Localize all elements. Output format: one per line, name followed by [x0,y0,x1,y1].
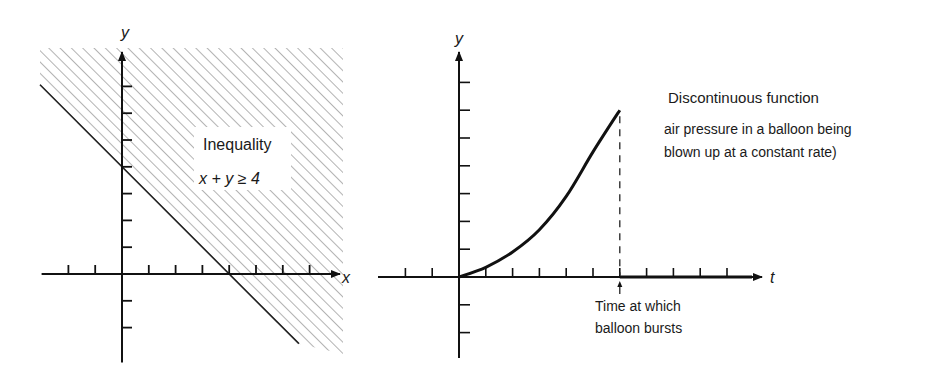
inequality-title: Inequality [203,136,272,153]
shaded-region [40,48,343,354]
pressure-curve [459,110,620,277]
burst-annotation-line-1: Time at which [595,298,681,314]
t-axis-label: t [770,269,775,286]
burst-annotation-line-2: balloon bursts [595,320,682,336]
burst-arrow-head-icon [617,281,622,287]
diagram-canvas: x y Inequality x + y ≥ 4 t y Discontinuo… [0,0,943,378]
inequality-graph: x y Inequality x + y ≥ 4 [40,24,351,362]
x-axis-label: x [341,269,351,286]
description-line-2: blown up at a constant rate) [664,144,837,160]
inequality-equation: x + y ≥ 4 [198,170,260,187]
function-title: Discontinuous function [668,89,819,106]
y-axis-label: y [120,24,130,41]
discontinuous-function-graph: t y Discontinuous function air pressure … [378,30,852,358]
y-axis-label: y [454,30,464,47]
description-line-1: air pressure in a balloon being [664,121,852,137]
